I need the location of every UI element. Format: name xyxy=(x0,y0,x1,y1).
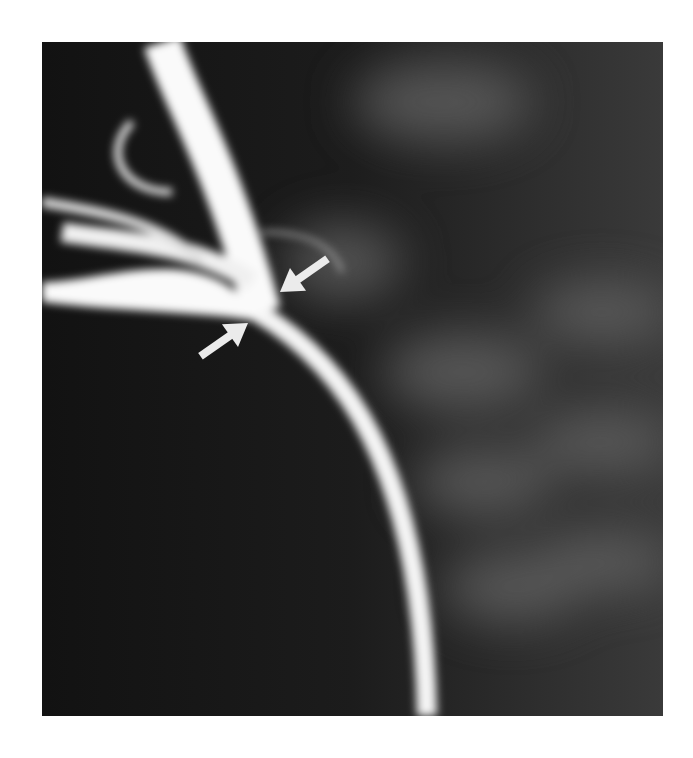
radiograph-image xyxy=(42,42,663,716)
xray-illustration xyxy=(42,42,663,716)
